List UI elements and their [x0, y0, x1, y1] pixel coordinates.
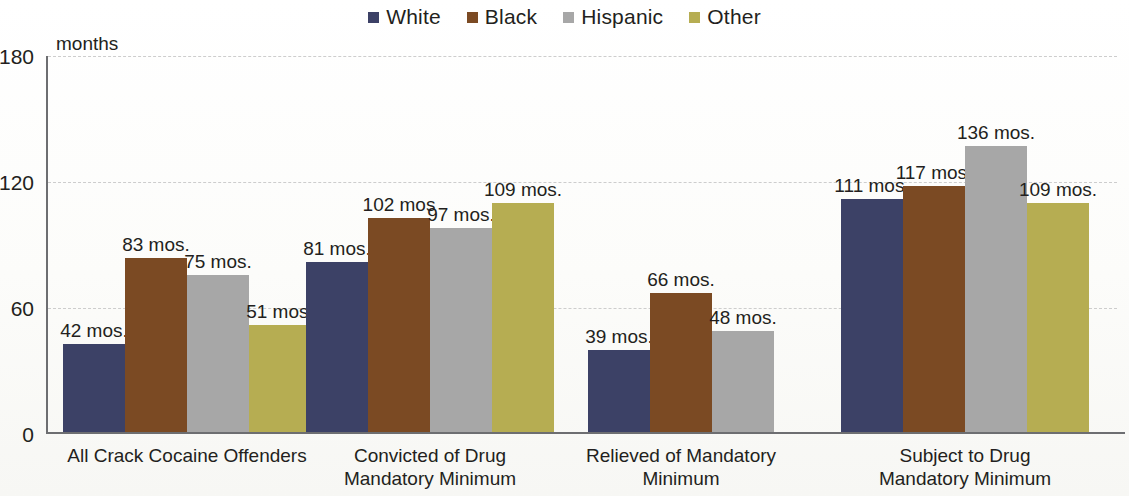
bar-other[interactable]	[1027, 203, 1089, 432]
legend-item-label: Black	[485, 6, 537, 27]
legend-item-white[interactable]: White	[368, 6, 441, 27]
bar-slot-white: 111 mos.	[841, 56, 903, 432]
legend-item-black[interactable]: Black	[467, 6, 537, 27]
bar-slot-white: 39 mos.	[588, 56, 650, 432]
category-label: Subject to DrugMandatory Minimum	[800, 444, 1129, 490]
legend-swatch-icon	[563, 12, 574, 23]
plot-area: months 060120180 42 mos.83 mos.75 mos.51…	[46, 56, 1125, 434]
bar-value-label: 102 mos	[363, 195, 436, 214]
y-axis-tick-label: 60	[0, 298, 34, 319]
bar-slot-hispanic: 75 mos.	[187, 56, 249, 432]
x-axis-line	[46, 432, 1125, 434]
y-axis-tick-label: 180	[0, 46, 34, 67]
legend-swatch-icon	[368, 12, 379, 23]
bar-slot-black: 66 mos.	[650, 56, 712, 432]
bar-value-label: 109 mos.	[484, 180, 562, 199]
bar-slot-hispanic: 48 mos.	[712, 56, 774, 432]
bar-group-bars: 81 mos.102 mos97 mos.109 mos.	[306, 56, 554, 432]
y-axis-tick-label: 0	[0, 424, 34, 445]
category-label-line: Minimum	[516, 467, 846, 490]
bar-value-label: 109 mos.	[1019, 180, 1097, 199]
bar-value-label: 97 mos.	[427, 205, 495, 224]
legend-item-other[interactable]: Other	[689, 6, 761, 27]
bar-white[interactable]	[588, 350, 650, 432]
y-axis-unit-label: months	[56, 34, 118, 53]
bar-slot-hispanic: 136 mos.	[965, 56, 1027, 432]
bar-value-label: 81 mos.	[303, 239, 371, 258]
bar-group-bars: 42 mos.83 mos.75 mos.51 mos.	[63, 56, 311, 432]
bar-slot-other: 109 mos.	[492, 56, 554, 432]
y-axis-line	[46, 56, 48, 434]
bar-hispanic[interactable]	[187, 275, 249, 433]
bar-white[interactable]	[63, 344, 125, 432]
bar-other[interactable]	[492, 203, 554, 432]
bar-value-label: 117 mos.	[896, 163, 973, 182]
bar-slot-black: 102 mos	[368, 56, 430, 432]
bar-slot-black: 83 mos.	[125, 56, 187, 432]
bar-black[interactable]	[903, 186, 965, 432]
bar-value-label: 51 mos.	[246, 302, 314, 321]
bar-slot-white: 42 mos.	[63, 56, 125, 432]
bar-value-label: 42 mos.	[60, 321, 128, 340]
bar-white[interactable]	[306, 262, 368, 432]
category-label: Relieved of MandatoryMinimum	[516, 444, 846, 490]
bar-value-label: 136 mos.	[957, 123, 1035, 142]
bar-value-label: 83 mos.	[122, 235, 190, 254]
legend-item-label: White	[386, 6, 441, 27]
bar-value-label: 75 mos.	[184, 252, 252, 271]
y-axis-tick-label: 120	[0, 172, 34, 193]
bar-slot-other	[774, 56, 836, 432]
bar-slot-white: 81 mos.	[306, 56, 368, 432]
bar-value-label: 66 mos.	[647, 270, 715, 289]
bar-hispanic[interactable]	[430, 228, 492, 432]
bar-slot-other: 109 mos.	[1027, 56, 1089, 432]
chart-page: WhiteBlackHispanicOther months 060120180…	[0, 0, 1129, 496]
bar-black[interactable]	[125, 258, 187, 432]
legend-swatch-icon	[467, 12, 478, 23]
bar-slot-other: 51 mos.	[249, 56, 311, 432]
bar-other[interactable]	[249, 325, 311, 432]
bar-white[interactable]	[841, 199, 903, 432]
legend-item-label: Other	[707, 6, 761, 27]
legend-swatch-icon	[689, 12, 700, 23]
bar-value-label: 48 mos.	[709, 308, 777, 327]
bar-slot-black: 117 mos.	[903, 56, 965, 432]
bar-black[interactable]	[368, 218, 430, 432]
category-label-line: Mandatory Minimum	[800, 467, 1129, 490]
chart-legend: WhiteBlackHispanicOther	[0, 6, 1129, 27]
bar-value-label: 39 mos.	[585, 327, 653, 346]
category-label-line: Relieved of Mandatory	[516, 444, 846, 467]
bar-black[interactable]	[650, 293, 712, 432]
legend-item-label: Hispanic	[581, 6, 663, 27]
bar-hispanic[interactable]	[965, 146, 1027, 432]
bar-group-bars: 111 mos.117 mos.136 mos.109 mos.	[841, 56, 1089, 432]
bar-hispanic[interactable]	[712, 331, 774, 432]
category-label-line: Subject to Drug	[800, 444, 1129, 467]
bar-group-bars: 39 mos.66 mos.48 mos.	[588, 56, 836, 432]
legend-item-hispanic[interactable]: Hispanic	[563, 6, 663, 27]
bar-slot-hispanic: 97 mos.	[430, 56, 492, 432]
